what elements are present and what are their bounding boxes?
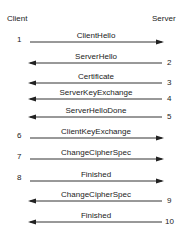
arrowhead-icon: [28, 97, 36, 102]
message-label: Certificate: [31, 72, 161, 81]
arrow-7: [30, 157, 164, 162]
arrowhead-icon: [156, 136, 164, 141]
arrow-3: [28, 81, 162, 86]
message-number: 3: [167, 78, 171, 87]
arrow-2: [28, 61, 162, 66]
arrow-5: [28, 115, 162, 120]
arrow-4: [28, 97, 162, 102]
message-label: ClientHello: [31, 31, 161, 40]
message-number: 7: [17, 152, 21, 161]
arrowhead-icon: [156, 40, 164, 45]
arrow-9: [28, 199, 162, 204]
arrowhead-icon: [28, 115, 36, 120]
arrow-6: [30, 136, 164, 141]
message-number: 5: [167, 112, 171, 121]
message-label: ChangeCipherSpec: [31, 190, 161, 199]
message-label: ServerHello: [31, 52, 161, 61]
message-number: 10: [165, 217, 174, 226]
arrowhead-icon: [28, 81, 36, 86]
message-number: 4: [167, 94, 171, 103]
arrow-8: [30, 179, 164, 184]
arrowhead-icon: [156, 157, 164, 162]
arrowhead-icon: [156, 179, 164, 184]
message-label: Finished: [31, 170, 161, 179]
arrow-1: [30, 40, 164, 45]
message-label: ChangeCipherSpec: [31, 148, 161, 157]
message-label: Finished: [31, 211, 161, 220]
message-label: ClientKeyExchange: [31, 127, 161, 136]
message-number: 1: [17, 35, 21, 44]
message-number: 9: [167, 196, 171, 205]
message-label: ServerKeyExchange: [31, 88, 161, 97]
message-number: 6: [17, 131, 21, 140]
message-label: ServerHelloDone: [31, 106, 161, 115]
arrow-10: [28, 220, 162, 225]
arrowhead-icon: [28, 61, 36, 66]
arrowhead-icon: [28, 199, 36, 204]
message-number: 2: [167, 58, 171, 67]
arrowhead-icon: [28, 220, 36, 225]
message-number: 8: [17, 173, 21, 182]
